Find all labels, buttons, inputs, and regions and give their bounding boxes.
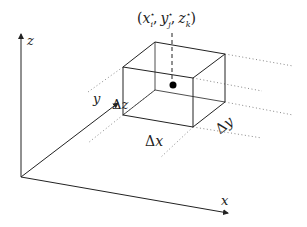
sample-point xyxy=(170,82,177,89)
z-axis-label: z xyxy=(26,33,34,48)
delta-z-label: Δz xyxy=(112,97,128,112)
delta-x-label: Δx xyxy=(145,133,163,149)
delta-y-label: Δy xyxy=(212,112,237,136)
x-axis xyxy=(21,177,228,213)
y-axis xyxy=(21,103,118,177)
y-axis-label: y xyxy=(92,91,101,106)
point-label: (x⋆i,y⋆j,z⋆k) xyxy=(137,10,196,29)
x-axis-label: x xyxy=(221,193,229,208)
diagram-canvas: z x y (x⋆i,y⋆j,z⋆k) Δz xyxy=(0,0,307,227)
